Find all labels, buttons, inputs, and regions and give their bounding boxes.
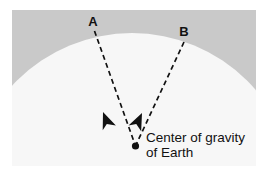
center-of-gravity-diagram: A B Center of gravity of Earth [0, 0, 268, 175]
label-a: A [88, 14, 98, 29]
center-of-gravity-point [132, 142, 139, 149]
label-b: B [179, 24, 188, 39]
caption-line-2: of Earth [146, 145, 193, 160]
figure-root: A B Center of gravity of Earth [0, 0, 268, 175]
caption-line-1: Center of gravity [146, 130, 245, 145]
